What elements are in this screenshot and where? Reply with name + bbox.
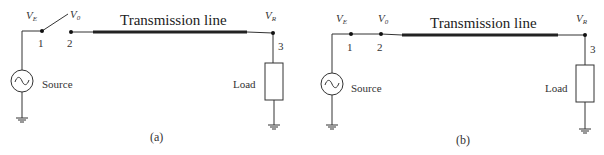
voltage-label-ve-b: VE (336, 12, 348, 26)
node-label-3-a: 3 (278, 40, 284, 52)
caption-a: (a) (150, 130, 163, 144)
ground-icon (579, 129, 591, 133)
panel-a: VE V0 VR 1 2 3 Transmission line Source … (11, 8, 284, 144)
lead-wire-b (381, 34, 402, 35)
ground-icon (326, 125, 338, 129)
source-label-b: Source (351, 82, 382, 94)
load-label-b: Load (545, 82, 568, 94)
panel-b: VE V0 VR 1 2 3 Transmission line Source … (321, 12, 596, 147)
end-wire-a (247, 32, 273, 33)
node-label-3-b: 3 (590, 43, 596, 55)
load-box-a (265, 63, 283, 100)
transmission-line-label-b: Transmission line (430, 15, 537, 31)
node-3-b (583, 33, 587, 37)
source-label-a: Source (42, 78, 73, 90)
node-2-a (69, 30, 73, 34)
node-label-1-b: 1 (347, 41, 353, 53)
voltage-label-ve-a: VE (26, 9, 38, 23)
node-label-2-b: 2 (377, 41, 383, 53)
node-label-2-a: 2 (67, 37, 73, 49)
circuit-diagram: VE V0 VR 1 2 3 Transmission line Source … (0, 0, 604, 155)
node-1-a (40, 29, 44, 33)
transmission-line-label-a: Transmission line (120, 12, 227, 28)
node-2-b (379, 32, 383, 36)
node-label-1-a: 1 (38, 37, 44, 49)
voltage-label-vr-a: VR (265, 9, 277, 23)
ground-icon (268, 125, 280, 129)
node-1-b (349, 32, 353, 36)
voltage-label-v0-b: V0 (378, 12, 389, 26)
voltage-label-v0-a: V0 (70, 8, 81, 22)
caption-b: (b) (456, 133, 470, 147)
node-3-a (271, 31, 275, 35)
ground-icon (16, 118, 28, 122)
voltage-label-vr-b: VR (576, 12, 588, 26)
load-box-b (576, 65, 594, 102)
load-label-a: Load (233, 78, 256, 90)
source-wire-b (332, 34, 351, 73)
open-switch-a (42, 14, 68, 31)
